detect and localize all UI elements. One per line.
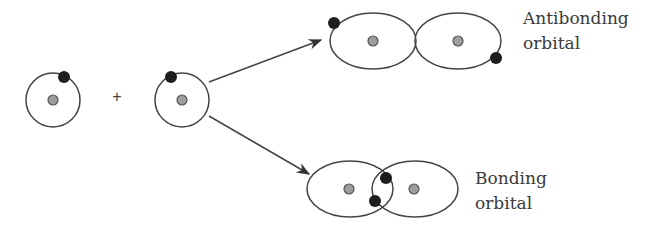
atom-1	[26, 71, 80, 127]
plus-sign: +	[112, 88, 121, 105]
arrow-to-antibonding	[209, 40, 321, 82]
bonding-label-line1: Bonding	[475, 168, 547, 188]
orbital-diagram: + Antibonding orbital Bonding orbital	[0, 0, 669, 230]
bonding-label-line2: orbital	[475, 193, 532, 213]
antibonding-right-nucleus	[453, 36, 463, 46]
atom-2-nucleus	[177, 95, 187, 105]
bonding-orbital	[307, 161, 458, 217]
bonding-electron-2	[369, 195, 381, 207]
antibonding-label-line1: Antibonding	[522, 8, 629, 28]
bonding-left-nucleus	[344, 184, 354, 194]
antibonding-label-line2: orbital	[523, 33, 580, 53]
atom-2	[155, 71, 209, 127]
antibonding-right-electron	[490, 52, 502, 64]
atom-2-electron	[165, 71, 177, 83]
antibonding-orbital	[328, 13, 502, 69]
arrow-to-bonding	[209, 116, 309, 174]
antibonding-left-electron	[328, 17, 340, 29]
bonding-electron-1	[380, 172, 392, 184]
atom-1-electron	[58, 71, 70, 83]
antibonding-left-nucleus	[368, 36, 378, 46]
bonding-right-nucleus	[409, 184, 419, 194]
atom-1-nucleus	[48, 95, 58, 105]
